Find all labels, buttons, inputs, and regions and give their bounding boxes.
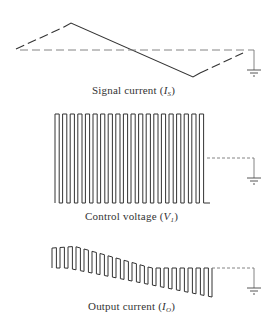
- output-current-waveform: [52, 247, 212, 297]
- signal-baseline: [20, 50, 254, 70]
- label-text: Control voltage (: [85, 210, 164, 222]
- output-current-label: Output current (IO): [88, 300, 175, 314]
- ground-icon: [247, 178, 261, 184]
- signal-current-label: Signal current (IS): [92, 84, 175, 98]
- waveform-diagram: [0, 0, 273, 321]
- control-voltage-waveform: [55, 114, 210, 203]
- control-baseline: [207, 158, 254, 178]
- control-voltage-label: Control voltage (V1): [85, 210, 178, 224]
- label-text: Signal current (: [92, 84, 164, 96]
- ground-icon: [247, 288, 261, 294]
- output-baseline: [212, 268, 254, 288]
- ground-icon: [247, 70, 261, 76]
- label-text: Output current (: [88, 300, 162, 312]
- label-close: ): [171, 300, 175, 312]
- label-close: ): [171, 84, 175, 96]
- label-close: ): [174, 210, 178, 222]
